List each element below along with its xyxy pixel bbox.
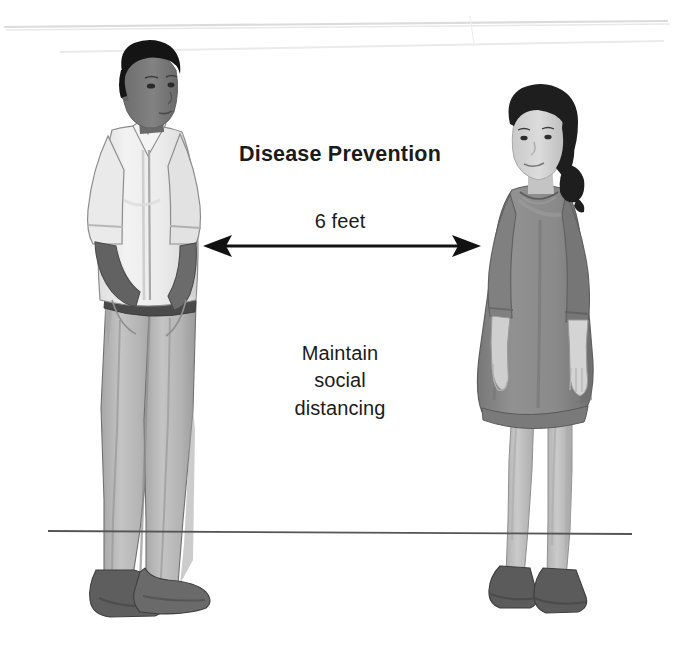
instruction-text: Maintain social distancing (200, 340, 480, 422)
illustration-canvas: Disease Prevention 6 feet Maintain socia… (0, 0, 674, 660)
double-headed-measurement-arrow (203, 235, 481, 257)
page-title: Disease Prevention (150, 141, 530, 169)
background-wall-lines (4, 16, 670, 52)
woman-shoes (489, 566, 587, 613)
distance-label: 6 feet (190, 208, 490, 234)
social-distancing-scene (0, 0, 674, 660)
man-shoes (90, 568, 210, 617)
